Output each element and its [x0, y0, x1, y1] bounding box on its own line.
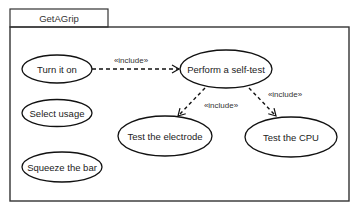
include-relationship-turn-on: «include» — [92, 56, 179, 69]
use-case-perform-self-test[interactable]: Perform a self-test — [180, 50, 272, 88]
use-case-squeeze-the-bar[interactable]: Squeeze the bar — [22, 152, 102, 182]
system-name: GetAGrip — [39, 13, 79, 24]
include-relationship-cpu: «include» — [249, 88, 303, 116]
use-case-turn-it-on[interactable]: Turn it on — [22, 55, 92, 83]
use-case-select-usage[interactable]: Select usage — [22, 100, 92, 127]
include-relationship-electrode: «include» — [178, 88, 239, 116]
svg-text:Select usage: Select usage — [30, 108, 85, 119]
use-case-diagram: GetAGrip «include» «include» «include» T… — [0, 0, 355, 208]
svg-text:Turn it on: Turn it on — [37, 64, 77, 75]
include-label: «include» — [204, 101, 239, 110]
include-label: «include» — [114, 56, 149, 65]
svg-text:Squeeze the bar: Squeeze the bar — [27, 162, 97, 173]
use-case-test-the-cpu[interactable]: Test the CPU — [245, 117, 337, 157]
include-label: «include» — [268, 90, 303, 99]
svg-text:Perform a self-test: Perform a self-test — [187, 64, 265, 75]
svg-text:Test the electrode: Test the electrode — [128, 131, 203, 142]
svg-text:Test the CPU: Test the CPU — [263, 132, 319, 143]
use-case-test-the-electrode[interactable]: Test the electrode — [118, 116, 212, 156]
